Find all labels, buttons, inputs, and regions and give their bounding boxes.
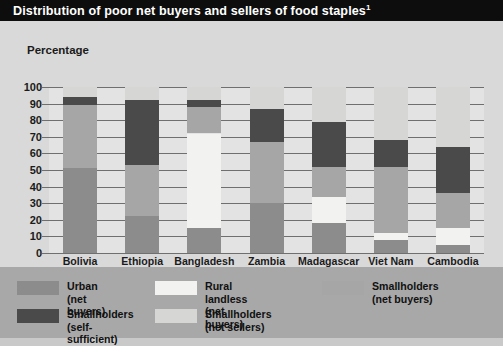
bar-segment <box>125 100 159 165</box>
bar-segment <box>312 197 346 224</box>
legend-label: Smallholders (net sellers) <box>205 308 272 333</box>
x-axis-label-madagascar: Madagascar <box>298 255 359 267</box>
y-tick-label-70: 70 <box>16 131 42 143</box>
plot-area <box>49 87 484 253</box>
bar-segment <box>374 233 408 240</box>
legend-swatch <box>17 281 59 295</box>
y-axis: 0102030405060708090100 <box>14 87 42 253</box>
x-axis-label-bolivia: Bolivia <box>63 255 98 267</box>
legend-swatch <box>155 309 197 323</box>
chart-panel: Percentage 0102030405060708090100 Bolivi… <box>0 21 503 267</box>
x-axis-label-bangladesh: Bangladesh <box>174 255 234 267</box>
bar-segment <box>250 109 284 142</box>
bar-segment <box>187 87 221 100</box>
page-title-text: Distribution of poor net buyers and sell… <box>13 4 366 18</box>
bar-viet-nam[interactable] <box>374 87 408 253</box>
bar-segment <box>63 105 97 168</box>
y-tick-mark-30 <box>42 203 49 204</box>
bar-madagascar[interactable] <box>312 87 346 253</box>
legend-swatch <box>322 281 364 295</box>
legend-swatch <box>17 309 59 323</box>
bar-segment <box>187 134 221 229</box>
gridline-0 <box>49 253 484 254</box>
bar-segment <box>436 228 470 245</box>
y-tick-label-50: 50 <box>16 164 42 176</box>
x-axis-label-zambia: Zambia <box>248 255 285 267</box>
y-tick-label-40: 40 <box>16 181 42 193</box>
y-tick-label-100: 100 <box>16 81 42 93</box>
bar-segment <box>250 203 284 253</box>
bar-segment <box>312 167 346 197</box>
bar-segment <box>187 107 221 134</box>
bar-segment <box>250 87 284 109</box>
y-tick-label-60: 60 <box>16 147 42 159</box>
y-tick-label-80: 80 <box>16 114 42 126</box>
bar-segment <box>125 87 159 100</box>
legend-label: Smallholders (net buyers) <box>372 280 439 305</box>
x-axis-label-viet-nam: Viet Nam <box>368 255 413 267</box>
bar-segment <box>436 147 470 193</box>
y-tick-mark-70 <box>42 137 49 138</box>
bar-segment <box>436 193 470 228</box>
chart-legend: Urban (net buyers)Rural landless (net bu… <box>0 267 503 338</box>
bar-segment <box>436 87 470 147</box>
y-tick-mark-20 <box>42 220 49 221</box>
legend-label: Smallholders (self-sufficient) <box>67 308 134 346</box>
bar-bangladesh[interactable] <box>187 87 221 253</box>
bar-segment <box>125 216 159 253</box>
bar-segment <box>312 223 346 253</box>
bar-bolivia[interactable] <box>63 87 97 253</box>
y-tick-mark-50 <box>42 170 49 171</box>
y-tick-mark-90 <box>42 104 49 105</box>
y-tick-mark-60 <box>42 153 49 154</box>
bar-segment <box>63 87 97 97</box>
bar-segment <box>125 165 159 216</box>
y-tick-mark-0 <box>42 253 49 254</box>
bar-segment <box>63 168 97 253</box>
y-tick-mark-10 <box>42 236 49 237</box>
bar-segment <box>250 142 284 203</box>
y-tick-label-0: 0 <box>16 247 42 259</box>
y-tick-label-20: 20 <box>16 214 42 226</box>
x-axis-label-cambodia: Cambodia <box>427 255 478 267</box>
legend-swatch <box>155 281 197 295</box>
y-tick-mark-40 <box>42 187 49 188</box>
y-tick-label-10: 10 <box>16 230 42 242</box>
y-tick-label-30: 30 <box>16 197 42 209</box>
y-axis-title: Percentage <box>27 44 89 56</box>
bar-ethiopia[interactable] <box>125 87 159 253</box>
bar-segment <box>63 97 97 105</box>
bar-segment <box>374 240 408 253</box>
x-axis-label-ethiopia: Ethiopia <box>121 255 163 267</box>
y-tick-label-90: 90 <box>16 98 42 110</box>
title-footnote-marker: 1 <box>366 3 371 12</box>
bar-cambodia[interactable] <box>436 87 470 253</box>
bar-segment <box>312 122 346 167</box>
y-tick-mark-80 <box>42 120 49 121</box>
y-tick-mark-100 <box>42 87 49 88</box>
bar-zambia[interactable] <box>250 87 284 253</box>
bar-segment <box>374 87 408 140</box>
bar-segment <box>312 87 346 122</box>
bar-segment <box>374 167 408 233</box>
title-bar: Distribution of poor net buyers and sell… <box>0 0 503 21</box>
bar-segment <box>374 140 408 167</box>
page-title: Distribution of poor net buyers and sell… <box>13 3 371 18</box>
bar-segment <box>187 228 221 253</box>
bar-segment <box>187 100 221 107</box>
bar-segment <box>436 245 470 253</box>
